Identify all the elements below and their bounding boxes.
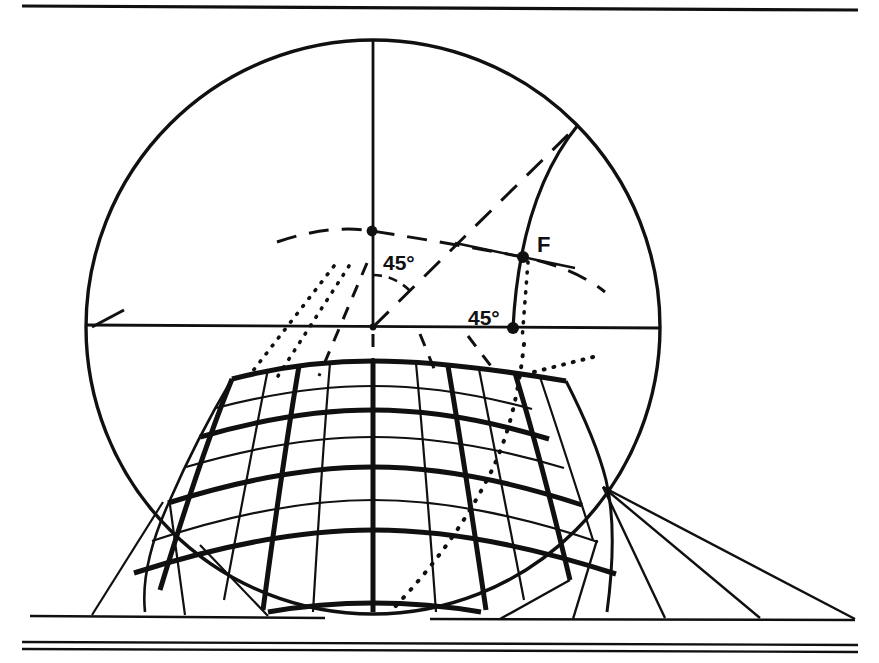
projection-diagram: 45° 45° F: [0, 0, 879, 663]
sphere-center-dot: [370, 324, 377, 331]
angle-label-lower: 45°: [468, 306, 500, 329]
upper-axis-dot: [367, 226, 378, 237]
point-f-foot-dot: [507, 322, 519, 334]
ground-line-right: [430, 619, 855, 620]
figure-root: 45° 45° F: [0, 0, 879, 663]
point-f-label: F: [537, 232, 550, 257]
angle-label-upper: 45°: [383, 251, 415, 274]
point-f-dot: [517, 251, 529, 263]
